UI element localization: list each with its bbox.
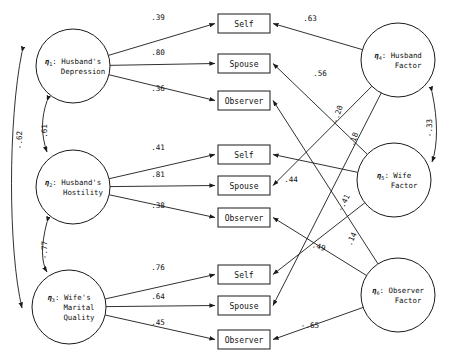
latent-label-line-1: η2: Husband's — [45, 178, 102, 188]
latent-circle[interactable] — [361, 23, 435, 97]
path-coefficient: .64 — [151, 292, 165, 301]
path-arrow — [110, 186, 215, 187]
path-coefficient: .76 — [151, 263, 165, 272]
indicator-label: Observer — [225, 97, 264, 106]
indicator-label: Observer — [225, 336, 264, 345]
path-coefficient: .63 — [303, 14, 317, 23]
path-arrow — [110, 64, 215, 66]
path-coefficient: -.20 — [331, 104, 345, 125]
path-coefficient: .18 — [347, 131, 360, 147]
latent-name-part-1: Observer — [388, 286, 424, 295]
path-coefficient: .36 — [151, 84, 165, 93]
indicator-label: Self — [234, 20, 253, 29]
latent-name-part-1: Husband's — [61, 57, 101, 66]
latent-circle[interactable] — [36, 150, 110, 224]
correlation-coefficient: .61 — [40, 124, 49, 138]
path-coefficient: .44 — [284, 175, 298, 184]
latent-name-part-1: Wife — [393, 171, 411, 180]
correlation-coefficient: -.33 — [425, 119, 434, 137]
path-coefficient: .56 — [313, 69, 327, 78]
indicator-label: Spouse — [230, 60, 259, 69]
indicator-label: Self — [234, 271, 253, 280]
diagram-canvas: .39.80.36.41.81.38.76.64.45.63.56-.20.18… — [0, 0, 459, 362]
latent-label-line-1: η6: Observer — [372, 286, 425, 296]
path-coefficient: .80 — [151, 48, 165, 57]
path-arrow — [273, 24, 362, 50]
latent-label-line-1: η1: Husband's — [45, 57, 102, 67]
indicator-label: Spouse — [230, 302, 259, 311]
latent-circle[interactable] — [361, 258, 435, 332]
path-coefficient: -.65 — [301, 321, 319, 330]
latent-label-line-2: Depression — [61, 67, 106, 76]
latent-label-line-2: Marital — [63, 303, 94, 312]
latent-name-part-1: Wife's — [64, 293, 91, 302]
latent-label-line-1: η4: Husband — [374, 51, 422, 61]
latent-name-part-1: Husband's — [61, 178, 101, 187]
path-coefficient: .45 — [151, 318, 165, 327]
latent-circle[interactable] — [357, 143, 431, 217]
latent-label-line-2: Factor — [395, 61, 422, 70]
latent-name-part-1: Husband — [391, 51, 422, 60]
path-arrow — [106, 306, 215, 307]
path-coefficient: .49 — [311, 240, 327, 253]
correlation-coefficient: -.77 — [40, 241, 49, 259]
path-coefficient: .14 — [345, 230, 359, 247]
latent-label-line-2: Hostility — [63, 188, 104, 197]
latent-circle[interactable] — [36, 29, 110, 103]
path-coefficient: .38 — [151, 201, 165, 210]
latent-label-line-3: Quality — [63, 313, 95, 322]
correlation-coefficient: -.62 — [15, 131, 24, 149]
latent-label-line-2: Factor — [391, 181, 418, 190]
indicator-label: Spouse — [230, 182, 259, 191]
latent-label-line-2: Factor — [395, 296, 422, 305]
path-coefficient: .81 — [151, 170, 165, 179]
path-coefficient: .39 — [151, 13, 165, 22]
path-coefficient: .41 — [151, 143, 165, 152]
indicator-label: Observer — [225, 214, 264, 223]
indicator-label: Self — [234, 151, 253, 160]
correlation-arrow — [12, 52, 23, 308]
path-coefficient: -.41 — [336, 192, 353, 213]
path-diagram: .39.80.36.41.81.38.76.64.45.63.56-.20.18… — [0, 0, 459, 362]
